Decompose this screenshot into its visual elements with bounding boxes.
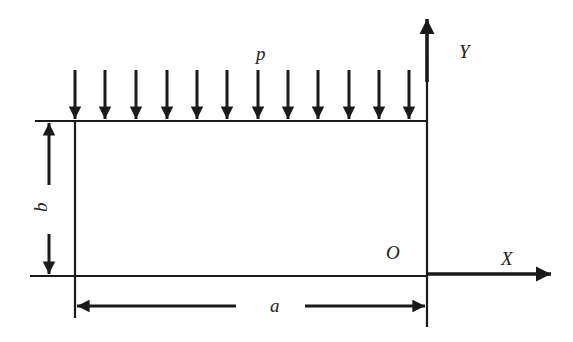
origin-label: O — [386, 242, 400, 263]
y-axis-label: Y — [459, 41, 472, 62]
x-axis-label: X — [500, 248, 514, 269]
load-arrows — [75, 70, 409, 119]
plate-diagram: p Y X O a b — [0, 0, 573, 342]
width-label-a: a — [270, 295, 280, 316]
height-label-b: b — [30, 203, 51, 213]
load-label-p: p — [254, 43, 266, 64]
